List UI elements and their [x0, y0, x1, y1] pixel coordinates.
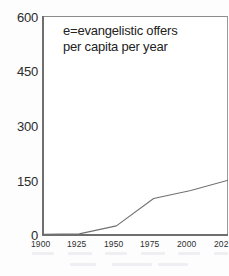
x-axis-labels: 1900 1925 1950 1975 2000 202 [0, 239, 229, 253]
y-axis-labels: 600 450 300 150 0 [0, 0, 38, 276]
plot-annotation-line-2: per capita per year [63, 39, 223, 55]
plot-annotation-line-1: e=evangelistic offers [63, 23, 223, 39]
y-axis-tick-label: 300 [2, 120, 38, 133]
chart-screenshot: 600 450 300 150 0 e=evangelistic offers … [0, 0, 229, 276]
x-axis-tick-label: 1925 [67, 239, 86, 249]
y-axis-tick-label: 600 [2, 11, 38, 24]
x-axis-tick-label: 2000 [177, 239, 196, 249]
plot-annotation: e=evangelistic offers per capita per yea… [63, 23, 223, 54]
y-axis-tick-label: 450 [2, 65, 38, 78]
x-axis-tick-label: 1950 [104, 239, 123, 249]
y-axis-tick-label: 150 [2, 175, 38, 188]
x-axis-tick-label: 1900 [31, 239, 50, 249]
series-line-e [42, 180, 228, 234]
x-axis-tick-label-clipped: 202 [214, 239, 228, 249]
x-axis-tick-label: 1975 [140, 239, 159, 249]
